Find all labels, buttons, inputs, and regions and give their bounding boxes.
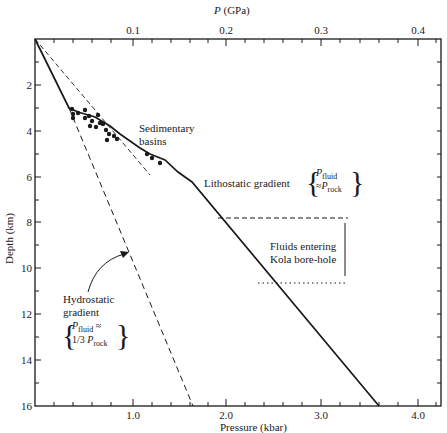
bottom-tick-label: 4.0 [411, 409, 425, 421]
hydrostatic-brace-close: } [116, 320, 130, 350]
y-tick-label: 12 [10, 308, 32, 320]
bottom-tick-label: 3.0 [314, 409, 328, 421]
sedimentary-envelope-line [35, 39, 150, 175]
lithostatic-gradient-line [35, 39, 379, 406]
hydrostatic-arrow-shaft [88, 254, 124, 292]
bottom-tick-label: 1.0 [126, 409, 140, 421]
lithostatic-formula-line2: ≈Prock [316, 180, 342, 195]
kola-label-line2: Kola bore-hole [270, 253, 336, 265]
x-ticks-top [54, 39, 436, 46]
kola-label-line1: Fluids entering [270, 240, 336, 252]
y-ticks-left [35, 62, 41, 383]
top-tick-label: 0.3 [314, 24, 328, 36]
top-axis-title: P (GPa) [214, 4, 250, 16]
top-tick-label: 0.4 [411, 24, 425, 36]
chart-canvas [0, 0, 447, 433]
y-tick-label: 6 [10, 171, 32, 183]
hydrostatic-label-line2: gradient [63, 306, 99, 318]
y-tick-label: 16 [10, 400, 32, 412]
hydrostatic-label-line1: Hydrostatic [63, 293, 114, 305]
y-tick-label: 14 [10, 354, 32, 366]
hydrostatic-formula-line1: Pfluid ≈ [72, 320, 101, 335]
y-tick-label: 4 [10, 125, 32, 137]
bottom-tick-label: 2.0 [219, 409, 233, 421]
top-tick-label: 0.1 [126, 24, 140, 36]
sedimentary-label-line2: basins [139, 135, 167, 147]
lithostatic-label: Lithostatic gradient [204, 177, 290, 189]
sedimentary-label-line1: Sedimentary [139, 122, 195, 134]
top-tick-label: 0.2 [219, 24, 233, 36]
lithostatic-brace-close: } [350, 167, 364, 197]
y-axis-title: Depth (km) [3, 213, 15, 264]
plot-frame [35, 39, 441, 406]
hydrostatic-formula-line2: 1/3 Prock [72, 334, 108, 349]
bottom-axis-title: Pressure (kbar) [220, 421, 287, 433]
y-tick-label: 2 [10, 79, 32, 91]
